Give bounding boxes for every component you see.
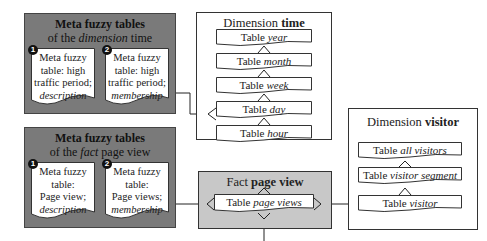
meta-fact-subtitle: of the fact page view [25,145,175,159]
table-day[interactable]: Table day [216,101,312,119]
number-badge-2: 2 [102,45,112,55]
table-all-visitors[interactable]: Table all visitors [358,142,462,160]
meta-fuzzy-doc-page-view-description[interactable]: Meta fuzzy table: Page view; description [31,162,95,224]
meta-fuzzy-tables-fact-panel: Meta fuzzy tables of the fact page view … [24,127,176,228]
number-badge-2: 2 [102,159,112,169]
meta-fuzzy-tables-time-panel: Meta fuzzy tables of the dimension time … [24,13,176,114]
table-visitor-segment[interactable]: Table visitor segment [358,167,462,185]
fact-page-view-title: Fact page view [199,175,331,189]
meta-time-subtitle: of the dimension time [25,31,175,45]
meta-fuzzy-doc-page-views-membership[interactable]: Meta fuzzy table: Page views; membership [105,162,169,224]
table-visitor[interactable]: Table visitor [358,195,462,213]
table-week[interactable]: Table week [216,77,312,95]
meta-fuzzy-doc-high-traffic-description[interactable]: Meta fuzzy table: high traffic period; d… [31,48,95,110]
meta-time-title: Meta fuzzy tables [25,17,175,31]
number-badge-1: 1 [28,45,38,55]
meta-fact-title: Meta fuzzy tables [25,131,175,145]
table-month[interactable]: Table month [216,53,312,71]
dimension-time-title: Dimension time [197,16,331,30]
table-year[interactable]: Table year [216,29,312,47]
meta-fuzzy-doc-high-traffic-membership[interactable]: Meta fuzzy table: high traffic period; m… [105,48,169,110]
number-badge-1: 1 [28,159,38,169]
table-hour[interactable]: Table hour [216,125,312,143]
dimension-visitor-title: Dimension visitor [349,115,477,129]
table-page-views[interactable]: Table page views [214,194,314,213]
